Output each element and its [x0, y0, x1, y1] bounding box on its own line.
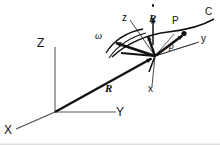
moving-y-axis-label: y: [201, 34, 206, 44]
fixed-x-axis-line: [16, 112, 55, 129]
kinematics-diagram: Z Y X z y x R R ω ρ P C: [0, 0, 220, 145]
point-P-label: P: [172, 16, 179, 26]
velocity-vector-R-glyph: R: [149, 12, 156, 24]
frame-guide-lower: [155, 43, 196, 56]
moving-x-axis-label: x: [148, 84, 153, 94]
point-P-marker: [181, 31, 186, 36]
angular-velocity-label: ω: [95, 31, 102, 41]
position-vector-R-line: [55, 59, 152, 113]
velocity-vector-Rdot-label: R: [149, 8, 156, 26]
overdot-mark: [152, 4, 155, 7]
fixed-x-axis-label: X: [4, 124, 12, 136]
position-vector-R-label: R: [105, 83, 112, 94]
diagram-canvas: [0, 0, 220, 145]
fixed-z-axis-label: Z: [37, 37, 44, 49]
fixed-y-axis-label: Y: [116, 106, 124, 118]
moving-z-axis-label: z: [122, 13, 127, 23]
relative-vector-rho-label: ρ: [169, 41, 174, 51]
curve-C-label: C: [205, 7, 212, 17]
